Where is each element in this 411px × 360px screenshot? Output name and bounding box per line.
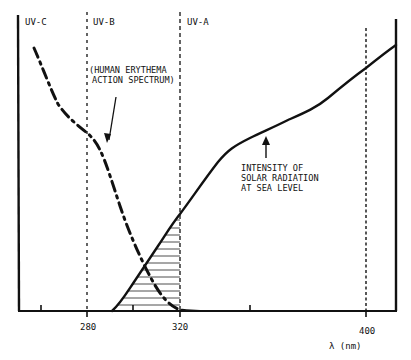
solar-annotation-line2: SOLAR RADIATION [241, 173, 319, 183]
solar-arrow-icon [262, 136, 270, 158]
x-axis-label: λ (nm) [329, 341, 362, 351]
y-axis-left [18, 15, 19, 311]
erythema-curve [34, 48, 188, 311]
tick-label-320: 320 [172, 322, 188, 332]
erythema-annotation-line2: ACTION SPECTRUM) [92, 75, 175, 85]
tick-label-400: 400 [359, 326, 375, 336]
erythema-annotation-line1: (HUMAN ERYTHEMA [89, 65, 167, 75]
solar-annotation-line1: INTENSITY OF [241, 163, 303, 173]
tick-label-280: 280 [80, 322, 96, 332]
region-label-uvc: UV-C [25, 17, 47, 27]
solar-annotation-line3: AT SEA LEVEL [241, 183, 303, 193]
erythema-tail [182, 310, 200, 311]
region-label-uva: UV-A [187, 17, 209, 27]
uv-spectrum-chart: UV-C UV-B UV-A (HUMAN ERYTHEMA ACTION SP… [0, 0, 411, 360]
region-label-uvb: UV-B [93, 17, 115, 27]
erythema-arrow-icon [104, 97, 116, 143]
